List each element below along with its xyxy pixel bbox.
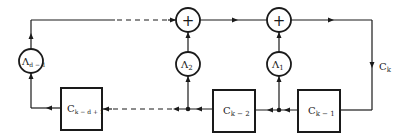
arrow-left-icon xyxy=(46,106,52,111)
multiplier-lambda-1: Λ1 xyxy=(267,52,291,76)
arrow-up-icon xyxy=(29,73,34,79)
arrow-up-icon xyxy=(29,33,34,39)
block-diagram: Ck + + Λ1 Λ2 Λd − 1 C xyxy=(0,0,404,140)
arrow-right-icon xyxy=(328,18,334,23)
arrow-up-icon xyxy=(186,32,191,38)
multiplier-lambda-d-1: Λd − 1 xyxy=(19,49,46,73)
arrow-left-icon xyxy=(267,108,273,113)
arrow-left-icon xyxy=(284,108,290,113)
register-c-k-1: Ck − 1 xyxy=(298,90,340,132)
arrow-left-icon xyxy=(196,107,202,112)
arrow-down-icon xyxy=(370,62,375,68)
adder-left: + xyxy=(176,8,200,32)
arrow-up-icon xyxy=(186,76,191,82)
svg-text:+: + xyxy=(273,12,286,30)
multiplier-lambda-2: Λ2 xyxy=(176,52,200,76)
register-c-k-2: Ck − 2 xyxy=(213,90,255,132)
register-c-k-d-1: Ck − d + 1 xyxy=(61,88,104,130)
arrow-right-icon xyxy=(232,18,238,23)
output-label: Ck xyxy=(379,61,392,74)
adder-right: + xyxy=(267,8,291,32)
svg-text:+: + xyxy=(182,12,195,30)
arrow-left-icon xyxy=(103,107,109,112)
arrow-up-icon xyxy=(277,32,282,38)
arrow-up-icon xyxy=(277,76,282,82)
arrow-left-icon xyxy=(173,107,179,112)
